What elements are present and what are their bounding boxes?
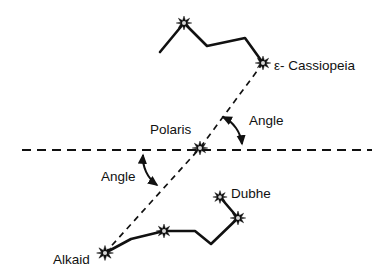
upper-angle-arc: [223, 117, 242, 144]
lower-angle-arc: [143, 155, 157, 185]
label-angle-lower: Angle: [101, 169, 136, 184]
star-cassiopeia-peak: [176, 16, 192, 30]
star-epsilon-cassiopeia: [255, 56, 271, 70]
star-alkaid: [97, 245, 114, 260]
celestial-navigation-diagram: ε- Cassiopeia Polaris Dubhe Alkaid Angle…: [0, 0, 386, 275]
label-dubhe: Dubhe: [231, 186, 271, 201]
star-polaris: [192, 141, 208, 155]
star-mizar: [156, 224, 172, 238]
polaris-sight-dashed-line: [105, 63, 263, 253]
label-polaris: Polaris: [150, 122, 192, 137]
label-angle-upper: Angle: [249, 113, 284, 128]
star-dubhe: [213, 191, 227, 204]
label-alkaid: Alkaid: [53, 252, 90, 267]
star-merak: [230, 211, 246, 225]
star-chart-diagram: ε- Cassiopeia Polaris Dubhe Alkaid Angle…: [0, 0, 386, 275]
cassiopeia-w-asterism: [160, 23, 263, 63]
big-dipper-asterism: [105, 197, 238, 253]
label-epsilon-cassiopeia: ε- Cassiopeia: [274, 58, 356, 73]
